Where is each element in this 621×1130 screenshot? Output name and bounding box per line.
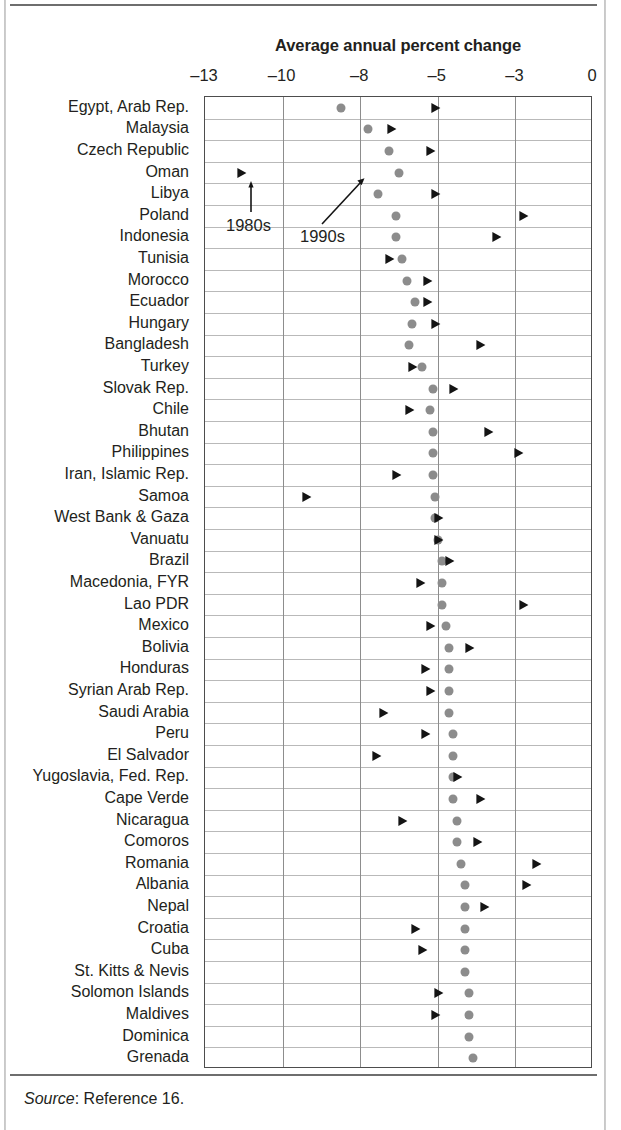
horizontal-gridline xyxy=(205,1004,591,1005)
y-axis-label-14: Chile xyxy=(153,401,189,417)
horizontal-gridline xyxy=(205,961,591,962)
y-axis-label-6: Indonesia xyxy=(120,228,189,244)
data-point-1990s xyxy=(426,621,435,631)
data-point-1980s xyxy=(449,730,458,739)
data-point-1990s xyxy=(421,664,430,674)
data-point-1980s xyxy=(441,622,450,631)
x-axis-tick-labels: –13–10–8–5–30 xyxy=(0,66,621,88)
data-point-1980s xyxy=(405,341,414,350)
horizontal-gridline xyxy=(205,335,591,336)
data-point-1980s xyxy=(464,989,473,998)
y-axis-label-3: Oman xyxy=(145,164,189,180)
y-axis-label-36: Albania xyxy=(136,876,189,892)
data-point-1990s xyxy=(434,988,443,998)
horizontal-gridline xyxy=(205,594,591,595)
x-tick-1: –10 xyxy=(268,66,296,85)
horizontal-gridline xyxy=(205,767,591,768)
data-point-1980s xyxy=(460,903,469,912)
data-point-1990s xyxy=(372,751,381,761)
data-point-1990s xyxy=(434,513,443,523)
y-axis-label-19: West Bank & Gaza xyxy=(54,509,189,525)
data-point-1990s xyxy=(454,772,463,782)
y-axis-label-8: Morocco xyxy=(128,272,189,288)
data-point-1980s xyxy=(426,406,435,415)
y-axis-label-9: Ecuador xyxy=(129,293,189,309)
page-title: Average annual percent change xyxy=(204,36,592,55)
y-axis-label-21: Brazil xyxy=(149,552,189,568)
y-axis-label-34: Comoros xyxy=(124,833,189,849)
data-point-1980s xyxy=(407,319,416,328)
y-axis-label-15: Bhutan xyxy=(138,423,189,439)
data-point-1990s xyxy=(424,297,433,307)
data-point-1990s xyxy=(522,880,531,890)
horizontal-gridline xyxy=(205,162,591,163)
y-axis-label-38: Croatia xyxy=(137,920,189,936)
y-axis-category-labels: Egypt, Arab Rep.MalaysiaCzech RepublicOm… xyxy=(0,96,198,1068)
data-point-1990s xyxy=(380,708,389,718)
horizontal-gridline xyxy=(205,810,591,811)
data-point-1990s xyxy=(424,276,433,286)
chart-plot-area xyxy=(204,96,592,1068)
horizontal-gridline xyxy=(205,205,591,206)
data-point-1980s xyxy=(402,276,411,285)
y-axis-label-23: Lao PDR xyxy=(124,596,189,612)
horizontal-gridline xyxy=(205,983,591,984)
data-point-1990s xyxy=(485,427,494,437)
y-axis-label-17: Iran, Islamic Rep. xyxy=(65,466,189,482)
vertical-gridline xyxy=(360,97,361,1067)
vertical-gridline xyxy=(515,97,516,1067)
data-point-1980s xyxy=(464,1011,473,1020)
y-axis-label-0: Egypt, Arab Rep. xyxy=(68,99,189,115)
data-point-1980s xyxy=(428,471,437,480)
horizontal-gridline xyxy=(205,119,591,120)
data-point-1990s xyxy=(446,556,455,566)
data-point-1990s xyxy=(481,902,490,912)
data-point-1980s xyxy=(460,946,469,955)
annotation-1990s: 1990s xyxy=(300,227,345,246)
figure-frame-top xyxy=(10,4,597,6)
y-axis-label-44: Grenada xyxy=(127,1049,189,1065)
data-point-1990s xyxy=(416,578,425,588)
horizontal-gridline xyxy=(205,723,591,724)
data-point-1980s xyxy=(453,838,462,847)
data-point-1990s xyxy=(421,729,430,739)
data-point-1990s xyxy=(393,470,402,480)
x-tick-4: –3 xyxy=(505,66,523,85)
data-point-1980s xyxy=(437,557,446,566)
data-point-1990s xyxy=(477,340,486,350)
data-point-1980s xyxy=(460,924,469,933)
y-axis-label-33: Nicaragua xyxy=(116,812,189,828)
data-point-1990s xyxy=(426,146,435,156)
horizontal-gridline xyxy=(205,896,591,897)
horizontal-gridline xyxy=(205,507,591,508)
y-axis-label-41: Solomon Islands xyxy=(71,984,189,1000)
y-axis-label-7: Tunisia xyxy=(138,250,189,266)
horizontal-gridline xyxy=(205,831,591,832)
y-axis-label-1: Malaysia xyxy=(126,120,189,136)
data-point-1980s xyxy=(457,859,466,868)
data-point-1990s xyxy=(477,794,486,804)
data-point-1980s xyxy=(449,751,458,760)
y-axis-label-11: Bangladesh xyxy=(104,336,189,352)
data-point-1980s xyxy=(460,881,469,890)
data-point-1990s xyxy=(388,124,397,134)
horizontal-gridline xyxy=(205,745,591,746)
vertical-gridline xyxy=(283,97,284,1067)
y-axis-label-12: Turkey xyxy=(141,358,189,374)
data-point-1980s xyxy=(437,600,446,609)
data-point-1980s xyxy=(397,255,406,264)
horizontal-gridline xyxy=(205,918,591,919)
data-point-1990s xyxy=(520,600,529,610)
y-axis-label-28: Saudi Arabia xyxy=(98,704,189,720)
data-point-1980s xyxy=(428,384,437,393)
y-axis-label-31: Yugoslavia, Fed. Rep. xyxy=(32,768,189,784)
data-point-1990s xyxy=(398,816,407,826)
y-axis-label-29: Peru xyxy=(155,725,189,741)
data-point-1990s xyxy=(465,643,474,653)
horizontal-gridline xyxy=(205,378,591,379)
horizontal-gridline xyxy=(205,529,591,530)
data-point-1990s xyxy=(302,492,311,502)
data-point-1990s xyxy=(385,254,394,264)
data-point-1980s xyxy=(464,1032,473,1041)
data-point-1990s xyxy=(473,837,482,847)
